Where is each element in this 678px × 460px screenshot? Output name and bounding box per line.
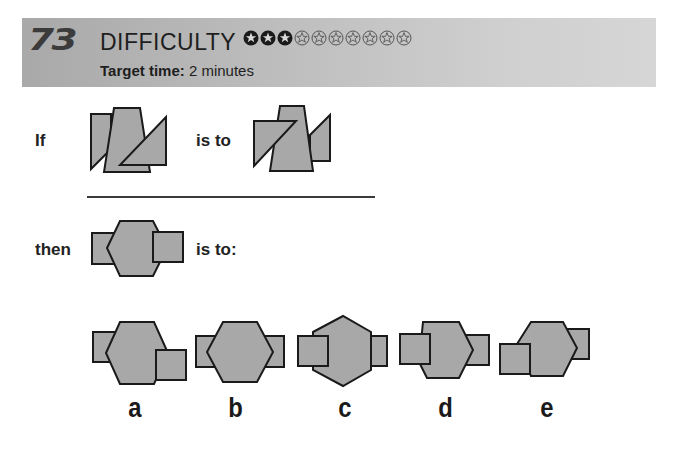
option-b-figure[interactable] bbox=[193, 318, 291, 392]
divider-line bbox=[87, 196, 375, 198]
option-b-label[interactable]: b bbox=[228, 392, 243, 424]
target-time-value: 2 minutes bbox=[189, 62, 254, 79]
is-to-label: is to bbox=[196, 131, 231, 151]
figure-then bbox=[89, 218, 187, 282]
is-to-colon-label: is to: bbox=[196, 240, 237, 260]
figure-if bbox=[88, 105, 172, 179]
option-e-figure[interactable] bbox=[497, 318, 595, 392]
option-a-label[interactable]: a bbox=[128, 392, 141, 424]
then-label: then bbox=[35, 240, 71, 260]
option-e-label[interactable]: e bbox=[540, 392, 553, 424]
option-c-figure[interactable] bbox=[295, 312, 393, 396]
option-d-figure[interactable] bbox=[397, 318, 495, 392]
option-d-label[interactable]: d bbox=[438, 392, 453, 424]
star-filled-icon bbox=[277, 30, 293, 50]
difficulty-label: DIFFICULTY bbox=[100, 29, 236, 56]
star-empty-icon bbox=[379, 30, 395, 50]
if-label: If bbox=[35, 131, 45, 151]
question-header: 73 DIFFICULTY Target time: 2 minutes bbox=[22, 18, 656, 87]
figure-is-to bbox=[250, 103, 334, 177]
question-number: 73 bbox=[28, 22, 75, 57]
star-empty-icon bbox=[311, 30, 327, 50]
star-filled-icon bbox=[243, 30, 259, 50]
option-c-label[interactable]: c bbox=[338, 392, 351, 424]
star-empty-icon bbox=[345, 30, 361, 50]
target-time-label: Target time: bbox=[100, 62, 185, 79]
star-empty-icon bbox=[362, 30, 378, 50]
star-empty-icon bbox=[328, 30, 344, 50]
star-filled-icon bbox=[260, 30, 276, 50]
star-empty-icon bbox=[396, 30, 412, 50]
option-a-figure[interactable] bbox=[90, 318, 188, 392]
difficulty-stars bbox=[243, 30, 412, 50]
star-empty-icon bbox=[294, 30, 310, 50]
target-time: Target time: 2 minutes bbox=[100, 62, 254, 79]
